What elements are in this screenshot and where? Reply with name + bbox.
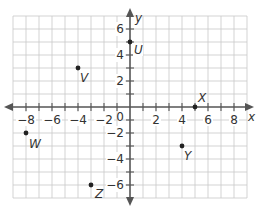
point-label: Z (94, 187, 104, 201)
x-tick-label: 4 (178, 113, 186, 127)
y-tick-label: 2 (116, 74, 124, 88)
coordinate-plane: −8 −6 −4 −2 2 4 6 8 6 4 2 −2 −4 −6 0 x y… (0, 0, 257, 213)
point-label: Y (184, 149, 193, 163)
point-label: U (134, 43, 143, 57)
y-axis-label: y (134, 11, 143, 25)
y-tick-label: −6 (106, 178, 124, 192)
x-tick-label: −2 (95, 113, 113, 127)
y-tick-label: −2 (106, 126, 124, 140)
y-tick-label: 6 (116, 22, 124, 36)
x-tick-label: 8 (230, 113, 238, 127)
origin-label: 0 (116, 110, 124, 124)
y-tick-label: −4 (106, 152, 124, 166)
point-label: V (80, 71, 89, 85)
x-tick-label: 2 (152, 113, 160, 127)
point-label: W (29, 137, 42, 151)
y-tick-label: 4 (116, 48, 124, 62)
x-tick-label: 6 (204, 113, 212, 127)
x-tick-label: −6 (43, 113, 61, 127)
point-label: X (197, 91, 207, 105)
x-axis (4, 103, 254, 111)
x-tick-label: −8 (17, 113, 35, 127)
x-tick-label: −4 (69, 113, 87, 127)
y-axis-down-arrow-icon (126, 197, 134, 206)
x-axis-label: x (247, 110, 256, 124)
x-axis-left-arrow-icon (4, 103, 13, 111)
y-axis-up-arrow-icon (126, 8, 134, 17)
